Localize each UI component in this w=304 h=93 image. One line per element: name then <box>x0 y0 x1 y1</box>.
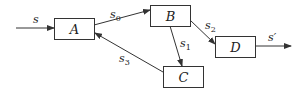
node-b-label: B <box>165 9 176 24</box>
edge-label-s3-sub: 3 <box>125 58 130 67</box>
edge-label-s1: s1 <box>180 37 191 52</box>
edge-label-output-s-prime: s′ <box>268 31 277 44</box>
edge-label-input-s: s <box>33 13 39 26</box>
node-c: C <box>164 67 204 88</box>
edge-label-s1-sub: 1 <box>186 43 191 52</box>
node-d: D <box>216 37 256 58</box>
node-b: B <box>151 6 191 27</box>
edge-label-s2: s2 <box>205 19 216 34</box>
edge-label-s0: s0 <box>110 8 121 23</box>
node-d-label: D <box>229 40 241 55</box>
node-a-label: A <box>69 22 79 37</box>
edge-label-s0-sub: 0 <box>116 14 121 23</box>
edge-label-s3: s3 <box>119 52 130 67</box>
edge-s0 <box>94 10 150 25</box>
edge-label-s2-sub: 2 <box>211 25 216 34</box>
node-c-label: C <box>179 70 189 85</box>
block-diagram: A B C D s s0 s1 s2 s3 s′ <box>0 0 304 93</box>
node-a: A <box>55 19 95 40</box>
